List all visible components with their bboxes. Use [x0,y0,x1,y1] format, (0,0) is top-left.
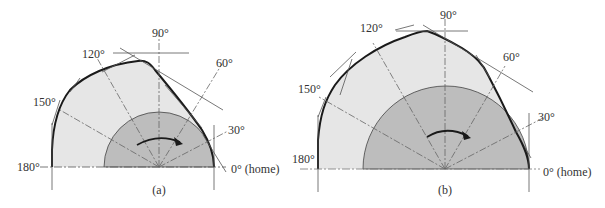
label-180-b: 180° [292,153,315,165]
label-150-b: 150° [298,83,321,95]
cam-profile-figure: 90° 120° 60° 150° 30° 180° 0° (home) (a) [0,0,605,208]
label-0-home-b: 0° (home) [543,166,591,178]
caption-b: (b) [438,184,452,196]
label-120-b: 120° [360,22,383,34]
label-90-b: 90° [440,9,457,21]
label-60-b: 60° [503,51,520,63]
label-30-b: 30° [538,111,555,123]
cam-diagram-b [0,0,605,208]
